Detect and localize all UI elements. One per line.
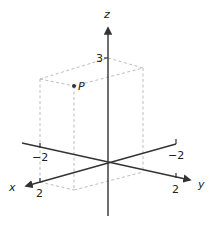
x-axis [26,144,176,186]
y-tick-label-neg2: −2 [32,151,48,164]
z-axis-label: z [103,8,110,21]
y-axis-label: y [197,178,205,191]
dashed-box [40,58,143,190]
axes [22,28,190,216]
x-tick-label-neg2: −2 [168,149,184,162]
x-axis-label: x [8,181,16,194]
x-tick-label-2: 2 [36,187,43,200]
diagram-canvas: z 3 P −2 2 x −2 2 y [0,0,215,228]
point-p-label: P [78,80,85,93]
coordinate-diagram: z 3 P −2 2 x −2 2 y [0,0,215,228]
z-tick-label: 3 [96,52,103,65]
point-p-dot [72,84,76,88]
y-tick-label-2: 2 [172,183,179,196]
